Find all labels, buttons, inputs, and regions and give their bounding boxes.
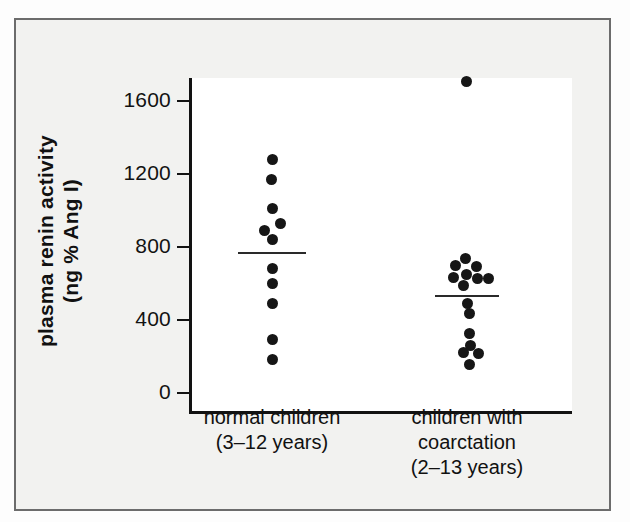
data-point	[267, 278, 278, 289]
group-label-line2: coarctation	[357, 430, 577, 455]
data-point	[473, 348, 484, 359]
data-point	[267, 334, 278, 345]
data-point	[448, 272, 459, 283]
data-point	[461, 76, 472, 87]
data-point	[267, 263, 278, 274]
x-axis-group-label-normal-children: normal children (3–12 years)	[162, 405, 382, 455]
data-point	[267, 234, 278, 245]
mean-line	[435, 295, 499, 297]
data-point	[471, 261, 482, 272]
y-tick-label-1200: 1200	[123, 161, 171, 185]
data-point	[458, 280, 469, 291]
data-point	[267, 298, 278, 309]
group-label-line2: (3–12 years)	[162, 430, 382, 455]
y-tick-label-400: 400	[135, 307, 171, 331]
y-tick-1200	[177, 173, 190, 175]
y-tick-400	[177, 319, 190, 321]
data-point	[483, 273, 494, 284]
data-point	[460, 253, 471, 264]
data-point	[458, 347, 469, 358]
data-point	[464, 328, 475, 339]
group-label-line3: (2–13 years)	[357, 455, 577, 480]
y-tick-label-1600: 1600	[123, 88, 171, 112]
y-tick-label-800: 800	[135, 234, 171, 258]
data-point	[464, 359, 475, 370]
x-axis-group-label-coarctation: children with coarctation (2–13 years)	[357, 405, 577, 480]
data-point	[450, 260, 461, 271]
y-tick-0	[177, 392, 190, 394]
data-point	[461, 269, 472, 280]
y-tick-800	[177, 246, 190, 248]
group-label-line1: normal children	[162, 405, 382, 430]
plot-area-background	[192, 78, 572, 412]
figure-container: plasma renin activity (ng % Ang I) 04008…	[0, 0, 630, 522]
data-point	[267, 154, 278, 165]
data-point	[266, 174, 277, 185]
y-axis-tick-labels: 040080012001600	[16, 20, 171, 509]
data-point	[472, 273, 483, 284]
figure-frame: plasma renin activity (ng % Ang I) 04008…	[14, 18, 611, 511]
y-tick-1600	[177, 100, 190, 102]
data-point	[464, 308, 475, 319]
data-point	[275, 218, 286, 229]
data-point	[267, 203, 278, 214]
mean-line	[238, 252, 306, 254]
data-point	[267, 354, 278, 365]
y-tick-label-0: 0	[159, 380, 171, 404]
group-label-line1: children with	[357, 405, 577, 430]
